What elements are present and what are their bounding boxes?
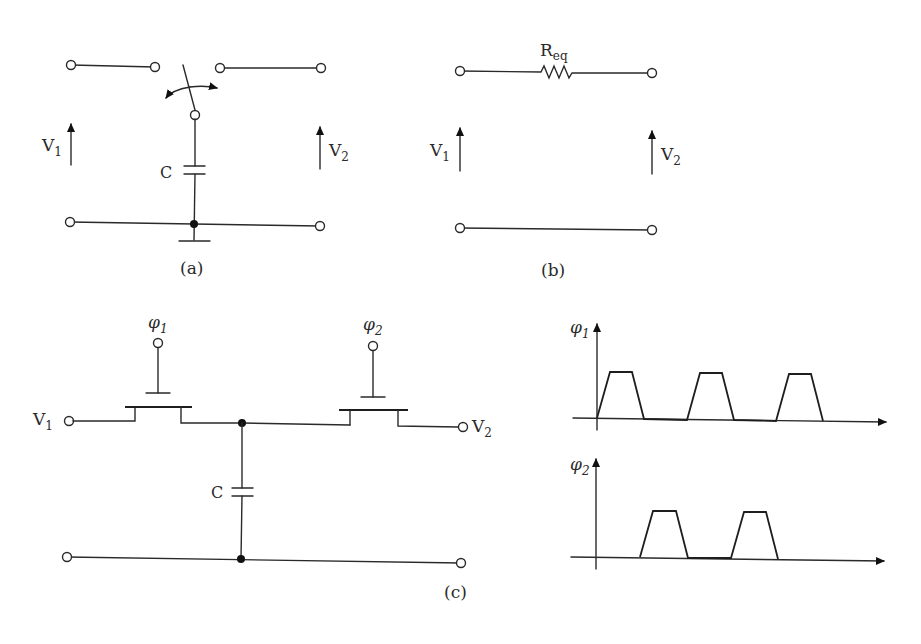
- terminal-bottom-right: [457, 559, 466, 568]
- clock-waveform-phi1: φ1: [570, 317, 886, 430]
- v1-label: V1: [429, 140, 450, 164]
- terminal-v2: [459, 423, 468, 432]
- caption-a: (a): [180, 258, 203, 278]
- junction-dot: [190, 220, 198, 228]
- switch-arrow-right-icon: [190, 86, 217, 88]
- wire: [71, 65, 155, 67]
- terminal-v1-top: [456, 67, 465, 76]
- time-axis-phi1: [573, 418, 886, 422]
- panel-c-mos-switched-capacitor: V1 φ1 φ2 V2 C (c): [32, 312, 492, 602]
- phi1-pulse-train: [597, 372, 823, 421]
- wire: [460, 228, 652, 230]
- wire: [241, 496, 242, 559]
- phi1-label: φ1: [148, 312, 168, 336]
- switch-arrow-left-icon: [166, 87, 190, 98]
- terminal-bottom-left: [63, 553, 72, 562]
- wire: [73, 407, 135, 421]
- gate-terminal-phi1: [154, 339, 163, 348]
- wire: [194, 174, 195, 240]
- wire: [242, 423, 350, 425]
- switch-pivot: [191, 111, 200, 120]
- switched-capacitor-figure: C V1 V2 (a) Req V1 V2 (b) V1: [0, 0, 921, 644]
- terminal-v2-bottom: [648, 226, 657, 235]
- terminal-v1-bottom: [456, 224, 465, 233]
- clock-waveform-phi2: φ2: [570, 454, 884, 569]
- panel-b-equivalent-resistor: Req V1 V2 (b): [429, 40, 681, 280]
- resistor-icon: [460, 66, 652, 78]
- v2-label: V2: [660, 144, 681, 168]
- phi2-pulse-train: [640, 511, 778, 559]
- terminal-v1-top: [67, 61, 76, 70]
- terminal-v2-top: [648, 69, 657, 78]
- v1-label: V1: [41, 135, 62, 159]
- resistor-label: Req: [540, 40, 568, 63]
- v2-label: V2: [471, 416, 492, 440]
- wire: [181, 407, 242, 423]
- phi2-label: φ2: [363, 314, 383, 338]
- terminal-v2-top: [317, 64, 326, 73]
- junction-dot: [237, 555, 245, 563]
- phi1-axis-label: φ1: [570, 317, 590, 341]
- v2-label: V2: [328, 140, 349, 164]
- terminal-v1: [65, 417, 74, 426]
- v1-label: V1: [32, 409, 53, 433]
- caption-b: (b): [541, 260, 565, 280]
- panel-a-switched-capacitor: C V1 V2 (a): [41, 61, 349, 279]
- phi2-axis-label: φ2: [570, 454, 590, 478]
- gate-terminal-phi2: [369, 342, 378, 351]
- terminal-v2-bottom: [316, 222, 325, 231]
- caption-c: (c): [444, 582, 467, 602]
- capacitor-label: C: [211, 483, 223, 502]
- wire-ground: [67, 557, 461, 563]
- switch-contact-right: [216, 64, 225, 73]
- switch-contact-left: [151, 63, 160, 72]
- capacitor-label: C: [160, 163, 172, 182]
- wire: [398, 410, 458, 427]
- terminal-v1-bottom: [66, 218, 75, 227]
